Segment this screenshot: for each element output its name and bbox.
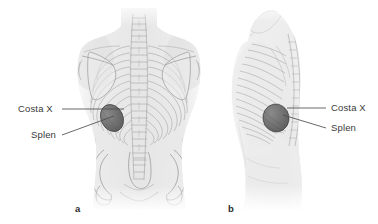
label-splen-panel-a: Splen: [31, 129, 56, 140]
anatomy-figure: Costa X Splen Costa X Splen a b: [0, 0, 378, 224]
label-costa-x-panel-a: Costa X: [18, 103, 53, 114]
panel-letter-b: b: [228, 203, 234, 214]
panel-a-illustration: [0, 0, 378, 224]
label-splen-panel-b: Splen: [331, 122, 356, 133]
panel-letter-a: a: [75, 203, 80, 214]
label-costa-x-panel-b: Costa X: [331, 102, 366, 113]
